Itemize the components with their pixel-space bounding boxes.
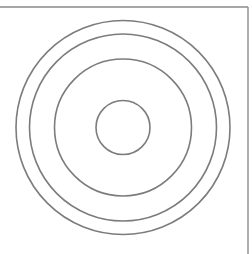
- concentric-circles-diagram: [0, 0, 252, 254]
- background: [0, 0, 252, 254]
